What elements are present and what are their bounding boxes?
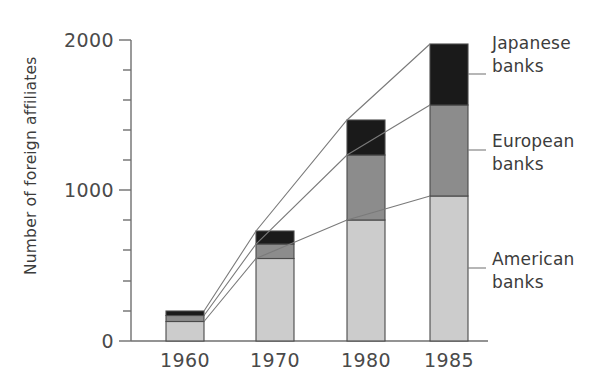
y-tick-label-0: 0 (102, 330, 115, 352)
legend-label-american-line1: American (492, 249, 575, 269)
chart-figure: Number of foreign affiliates 2000 1000 0 (0, 0, 600, 385)
bar-1980-japanese (347, 120, 385, 155)
bar-1985-american (430, 196, 468, 341)
stacked-bar-chart: Number of foreign affiliates 2000 1000 0 (0, 0, 600, 385)
legend-label-european-line1: European (492, 131, 575, 151)
connector-total-top (204, 44, 430, 311)
legend-item-american: American banks (492, 249, 575, 292)
bar-1985-japanese (430, 44, 468, 105)
bar-1970-american (256, 259, 294, 342)
legend-label-japanese-line1: Japanese (491, 33, 571, 53)
bar-1960-japanese (166, 311, 204, 316)
legend-label-european-line2: banks (492, 154, 544, 174)
connector-japanese-european-boundary (204, 105, 430, 316)
x-tick-label-1970: 1970 (250, 349, 300, 371)
x-tick-label-1980: 1980 (341, 349, 391, 371)
bar-1985-european (430, 105, 468, 196)
legend-item-european: European banks (492, 131, 575, 174)
y-tick-label-2000: 2000 (64, 29, 114, 51)
legend-label-japanese-line2: banks (492, 56, 544, 76)
y-tick-label-1000: 1000 (64, 179, 114, 201)
x-tick-label-1960: 1960 (160, 349, 210, 371)
bar-1970-japanese (256, 231, 294, 244)
y-axis-label: Number of foreign affiliates (22, 56, 40, 275)
legend-item-japanese: Japanese banks (491, 33, 571, 76)
bar-1960-european (166, 316, 204, 322)
legend-label-american-line2: banks (492, 272, 544, 292)
x-tick-label-1985: 1985 (424, 349, 474, 371)
bar-1980-american (347, 220, 385, 341)
bar-1960-american (166, 322, 204, 342)
